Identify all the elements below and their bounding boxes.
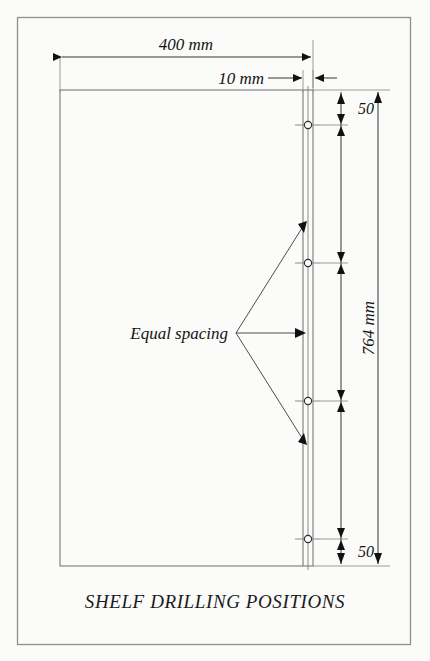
dimension-overall-width: 400 mm — [60, 35, 313, 92]
label-top-offset: 50 — [358, 100, 374, 117]
drill-hole-icon — [295, 535, 321, 542]
label-bottom-offset: 50 — [358, 543, 374, 560]
drill-hole-icon — [295, 397, 321, 404]
arrow-head-icon — [295, 328, 306, 338]
page-title: SHELF DRILLING POSITIONS — [85, 591, 345, 612]
drill-hole-icon — [295, 259, 321, 266]
technical-drawing-canvas: 400 mm 10 mm — [0, 0, 430, 661]
dimension-strip-width: 10 mm — [218, 69, 337, 92]
label-overall-height: 764 mm — [359, 301, 378, 355]
label-overall-width: 400 mm — [159, 35, 213, 54]
label-strip-width: 10 mm — [218, 69, 264, 88]
label-equal-spacing: Equal spacing — [129, 324, 228, 343]
dimension-chain-holes — [337, 92, 345, 564]
drawing-page: 400 mm 10 mm — [0, 0, 430, 661]
equal-spacing-leader — [236, 221, 307, 445]
dimension-overall-height: 764 mm — [359, 92, 382, 564]
drill-hole-icon — [295, 121, 321, 128]
